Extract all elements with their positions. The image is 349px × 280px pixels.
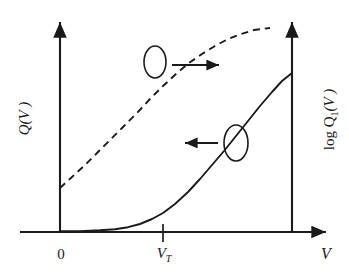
lower-highlight-ellipse [224,125,248,161]
figure-container: Q(V ) log Q1(V ) 0 VT V [0,0,349,280]
y-axis-right-title-prefix: log Q [321,116,337,150]
curve-logq1-solid [60,73,292,231]
y-axis-right-title-suffix: (V ) [321,89,337,112]
x-axis-title: V [314,245,338,263]
y-axis-left-title: Q(V ) [16,84,33,154]
upper-highlight-ellipse [144,46,166,78]
curve-q-dashed [60,28,270,188]
x-tick-label-vt-subscript: T [166,253,172,264]
x-tick-label-vt-base: V [157,245,166,261]
y-axis-right-title-subscript: 1 [329,111,340,116]
x-tick-label-vt: VT [148,245,180,264]
plot-canvas [0,0,349,280]
x-tick-label-zero: 0 [46,246,76,263]
y-axis-right-title: log Q1(V ) [321,75,340,165]
